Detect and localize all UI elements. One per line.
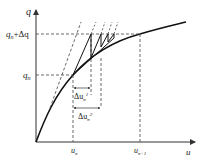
un1-label: un+1 xyxy=(134,146,146,156)
qn-label: qn xyxy=(23,70,31,81)
tangent-dashed-3 xyxy=(101,22,105,34)
tangent-dashed-2 xyxy=(91,22,96,34)
qn-dq-label: qn+Δq xyxy=(6,29,29,40)
diagram-canvas: q u qn+Δq qn un un+1 Δun1 Δun2 xyxy=(0,0,199,158)
load-curve xyxy=(36,22,186,142)
y-axis-label: q xyxy=(26,6,31,17)
du1-label: Δun1 xyxy=(74,92,88,102)
un-label: un xyxy=(71,146,78,156)
du2-label: Δun2 xyxy=(78,112,93,122)
tangent-dashed-5 xyxy=(114,22,118,34)
tangent-dashed-4 xyxy=(108,22,112,34)
x-axis-label: u xyxy=(186,147,191,157)
load-displacement-diagram: q u qn+Δq qn un un+1 Δun1 Δun2 xyxy=(0,0,199,158)
secant-line xyxy=(73,38,114,75)
